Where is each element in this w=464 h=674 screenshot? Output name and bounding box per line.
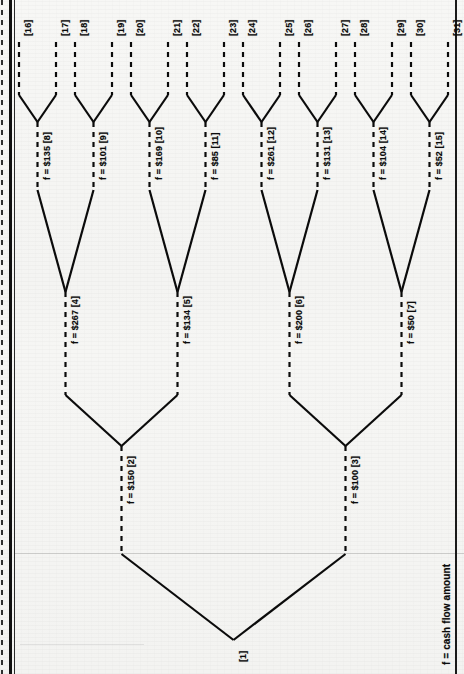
leaf-label-23: [23] bbox=[228, 20, 238, 36]
leaf-label-18: [18] bbox=[79, 20, 89, 36]
node-label-7: f = $50 [7] bbox=[406, 301, 416, 344]
leaf-label-26: [26] bbox=[303, 20, 313, 36]
leaf-label-22: [22] bbox=[191, 20, 201, 36]
node-label-9: f = $101 [9] bbox=[98, 132, 108, 180]
leaf-label-27: [27] bbox=[340, 20, 350, 36]
node-label-11: f = $85 [11] bbox=[210, 133, 220, 180]
node-label-13: f = $131 [13] bbox=[322, 127, 332, 180]
node-label-8: f = $135 [8] bbox=[42, 132, 52, 180]
leaf-label-25: [25] bbox=[284, 20, 294, 36]
leaf-label-31: [31] bbox=[452, 20, 462, 36]
legend-cash-flow: f = cash flow amount bbox=[441, 564, 452, 665]
leaf-label-16: [16] bbox=[23, 20, 33, 36]
root-label-1: [1] bbox=[238, 651, 248, 662]
node-label-4: f = $267 [4] bbox=[70, 296, 80, 344]
node-label-6: f = $200 [6] bbox=[294, 296, 304, 344]
node-label-10: f = $169 [10] bbox=[154, 127, 164, 180]
node-label-15: f = $52 [15] bbox=[434, 132, 444, 180]
leaf-label-29: [29] bbox=[396, 20, 406, 36]
node-label-3: f = $100 [3] bbox=[350, 456, 360, 504]
node-label-2: f = $150 [2] bbox=[126, 456, 136, 504]
leaf-label-20: [20] bbox=[135, 20, 145, 36]
leaf-label-21: [21] bbox=[172, 20, 182, 36]
leaf-label-30: [30] bbox=[415, 20, 425, 36]
leaf-label-24: [24] bbox=[247, 20, 257, 36]
leaf-label-28: [28] bbox=[359, 20, 369, 36]
node-label-5: f = $134 [5] bbox=[182, 296, 192, 344]
leaf-label-19: [19] bbox=[116, 20, 126, 36]
node-label-12: f = $261 [12] bbox=[266, 127, 276, 180]
scanned-page: [16][17][18][19][20][21][22][23][24][25]… bbox=[0, 0, 464, 674]
node-label-14: f = $104 [14] bbox=[378, 127, 388, 180]
leaf-label-17: [17] bbox=[60, 20, 70, 36]
